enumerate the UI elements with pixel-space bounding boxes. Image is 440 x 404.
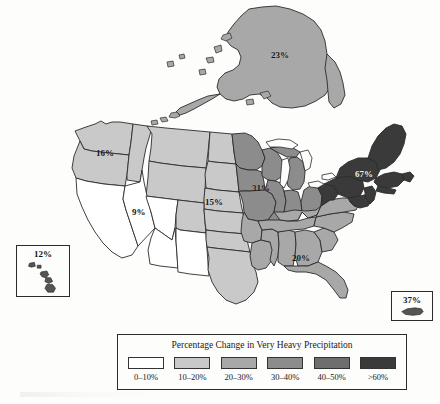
alaska-island [179, 54, 185, 59]
island-maui [45, 278, 53, 284]
region-label-southeast: 20% [292, 253, 310, 263]
region-label-southwest: 9% [132, 207, 146, 217]
legend-caption-over-60: >60% [368, 372, 388, 382]
alaska-island [246, 99, 254, 105]
alaska-panhandle [325, 54, 345, 108]
alaska-island [167, 61, 174, 67]
map-legend: Percentage Change in Very Heavy Precipit… [117, 334, 407, 390]
legend-title: Percentage Change in Very Heavy Precipit… [118, 340, 406, 350]
state-florida [284, 262, 348, 298]
legend-swatch-10-20 [174, 357, 210, 369]
legend-swatch-over-60 [360, 357, 396, 369]
hawaii-islands-graphic [17, 246, 69, 296]
state-north-dakota [208, 132, 236, 164]
legend-item-20-30: 20–30% [217, 357, 261, 382]
state-new-mexico [176, 228, 209, 276]
alaska-island [151, 120, 158, 125]
puerto-rico-graphic [392, 292, 432, 320]
legend-item-over-60: >60% [356, 357, 400, 382]
legend-items: 0–10% 10–20% 20–30% 30–40% 40–50% >60% [124, 357, 400, 382]
region-label-northwest: 16% [96, 148, 114, 158]
legend-swatch-20-30 [221, 357, 257, 369]
state-south-dakota [205, 161, 239, 192]
region-label-alaska: 23% [271, 50, 289, 60]
state-massachusetts-ct-ri [374, 172, 404, 188]
legend-caption-40-50: 40–50% [317, 372, 345, 382]
alaska-island [199, 69, 206, 75]
alaska-island [160, 117, 168, 122]
region-label-midwest: 31% [252, 183, 270, 193]
legend-caption-20-30: 20–30% [225, 372, 253, 382]
island-puerto-rico [402, 308, 423, 315]
legend-item-10-20: 10–20% [170, 357, 214, 382]
state-arizona [148, 228, 178, 268]
island-molokai-maui [40, 271, 49, 278]
island-kauai [29, 262, 36, 267]
island-hawaii [45, 284, 56, 292]
state-colorado [176, 200, 206, 233]
legend-swatch-30-40 [267, 357, 303, 369]
legend-caption-10-20: 10–20% [178, 372, 206, 382]
legend-item-30-40: 30–40% [263, 357, 307, 382]
legend-caption-0-10: 0–10% [134, 372, 158, 382]
region-label-northeast: 67% [355, 169, 373, 179]
scan-artifact [20, 392, 160, 397]
alaska-peninsula [176, 94, 220, 115]
legend-swatch-40-50 [314, 357, 350, 369]
alaska-island [206, 57, 214, 63]
legend-item-40-50: 40–50% [310, 357, 354, 382]
inset-puerto-rico: 37% [391, 291, 433, 321]
figure-map-precipitation-change: 23% 16% 9% 15% 31% 20% 67% 12% 37% Perce… [0, 0, 440, 404]
region-label-great-plains: 15% [205, 197, 223, 207]
legend-caption-30-40: 30–40% [271, 372, 299, 382]
state-montana [147, 126, 210, 168]
inset-hawaii: 12% [16, 245, 70, 297]
alaska-island [214, 45, 222, 53]
legend-swatch-0-10 [128, 357, 164, 369]
legend-item-0-10: 0–10% [124, 357, 168, 382]
island-oahu [37, 265, 41, 268]
